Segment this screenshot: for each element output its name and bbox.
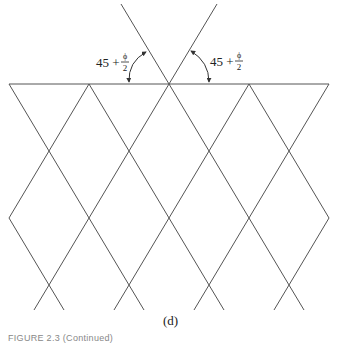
svg-text:45 +: 45 + — [210, 54, 234, 69]
svg-text:2: 2 — [123, 63, 128, 73]
rupture-line-upper-right — [169, 4, 217, 84]
svg-text:2: 2 — [237, 62, 242, 72]
angle-arc-left — [129, 52, 146, 82]
rupture-line-upper-left — [121, 4, 169, 84]
failure-plane-diagram: 45 + ϕ 2 45 + ϕ 2 (d) FIGURE 2.3 (Contin… — [0, 0, 341, 343]
angle-label-left: 45 + ϕ 2 — [96, 52, 129, 73]
diagram-canvas: 45 + ϕ 2 45 + ϕ 2 — [0, 0, 341, 343]
failure-planes-down-right — [9, 84, 329, 310]
svg-text:45 +: 45 + — [96, 55, 120, 70]
angle-label-right: 45 + ϕ 2 — [210, 51, 243, 72]
failure-planes-down-left — [9, 84, 329, 310]
figure-caption: FIGURE 2.3 (Continued) — [8, 333, 113, 343]
svg-text:ϕ: ϕ — [123, 52, 127, 61]
angle-arc-right — [191, 51, 209, 82]
svg-text:ϕ: ϕ — [237, 51, 241, 60]
subfigure-label: (d) — [0, 313, 341, 329]
